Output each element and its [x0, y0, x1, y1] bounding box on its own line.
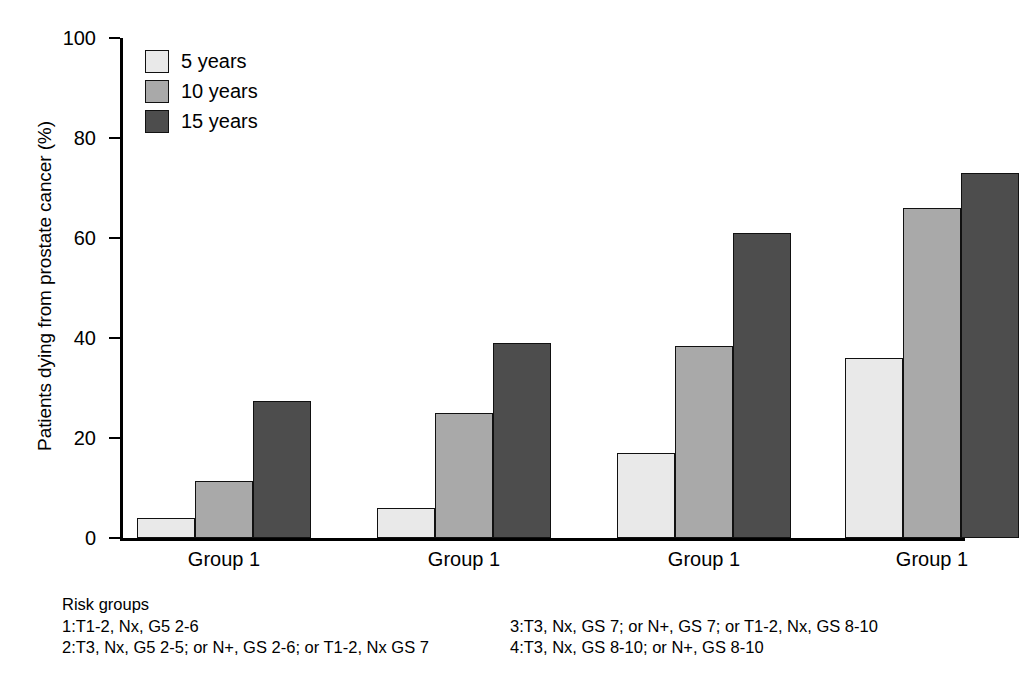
y-axis-tick	[109, 137, 120, 139]
y-axis-tick-label: 20	[26, 428, 96, 448]
caption: Risk groups 1:T1-2, Nx, G5 2-62:T3, Nx, …	[62, 594, 962, 616]
caption-column-right: 3:T3, Nx, GS 7; or N+, GS 7; or T1-2, Nx…	[510, 616, 878, 659]
legend-item-label: 10 years	[181, 81, 258, 101]
bar[interactable]	[903, 208, 961, 538]
x-axis-group-label: Group 1	[822, 548, 1023, 571]
bar[interactable]	[435, 413, 493, 538]
caption-column-left: 1:T1-2, Nx, G5 2-62:T3, Nx, G5 2-5; or N…	[62, 616, 429, 659]
y-axis-tick-label: 80	[26, 128, 96, 148]
y-axis-tick-label: 40	[26, 328, 96, 348]
bar[interactable]	[675, 346, 733, 539]
y-axis-tick-label: 100	[26, 28, 96, 48]
x-axis-group-label: Group 1	[594, 548, 814, 571]
legend-item-label: 5 years	[181, 51, 247, 71]
legend-item[interactable]: 5 years	[145, 46, 258, 76]
x-axis-group-label: Group 1	[114, 548, 334, 571]
bar[interactable]	[733, 233, 791, 538]
bar[interactable]	[253, 401, 311, 539]
bar[interactable]	[845, 358, 903, 538]
x-axis-line	[120, 538, 965, 541]
legend-swatch-icon	[145, 80, 169, 103]
legend-swatch-icon	[145, 110, 169, 133]
caption-line: 1:T1-2, Nx, G5 2-6	[62, 616, 429, 638]
y-axis-tick-label: 0	[26, 528, 96, 548]
caption-line: 2:T3, Nx, G5 2-5; or N+, GS 2-6; or T1-2…	[62, 637, 429, 659]
bar[interactable]	[961, 173, 1019, 538]
caption-line: 3:T3, Nx, GS 7; or N+, GS 7; or T1-2, Nx…	[510, 616, 878, 638]
bar[interactable]	[617, 453, 675, 538]
y-axis-tick-label: 60	[26, 228, 96, 248]
bar[interactable]	[377, 508, 435, 538]
x-axis-group-label: Group 1	[354, 548, 574, 571]
bar-group	[845, 38, 1019, 538]
legend: 5 years10 years15 years	[145, 46, 258, 136]
caption-title: Risk groups	[62, 594, 962, 616]
bar-group	[377, 38, 551, 538]
legend-item-label: 15 years	[181, 111, 258, 131]
bar[interactable]	[137, 518, 195, 538]
legend-item[interactable]: 10 years	[145, 76, 258, 106]
bar[interactable]	[195, 481, 253, 539]
legend-item[interactable]: 15 years	[145, 106, 258, 136]
caption-line: 4:T3, Nx, GS 8-10; or N+, GS 8-10	[510, 637, 878, 659]
bar-group	[617, 38, 791, 538]
y-axis-tick	[109, 537, 120, 539]
legend-swatch-icon	[145, 50, 169, 73]
bar[interactable]	[493, 343, 551, 538]
y-axis-tick	[109, 337, 120, 339]
y-axis-tick	[109, 237, 120, 239]
y-axis-tick	[109, 37, 120, 39]
y-axis-tick	[109, 437, 120, 439]
